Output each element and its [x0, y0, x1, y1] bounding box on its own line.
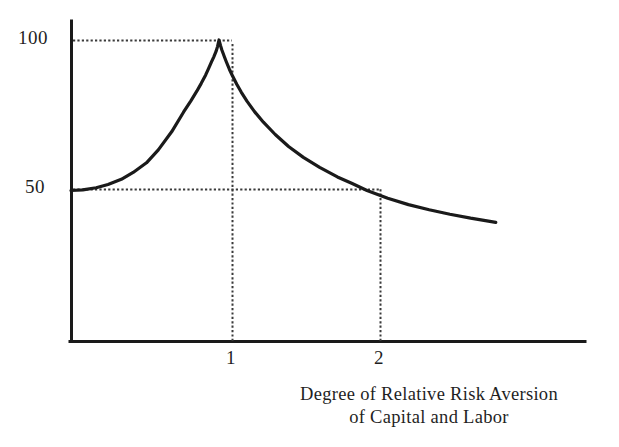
x-axis-label: Degree of Relative Risk Aversion of Capi… [249, 383, 609, 429]
x-axis-label-line-1: Degree of Relative Risk Aversion [249, 383, 609, 406]
y-tick-label-50: 50 [25, 177, 45, 196]
y-tick-label-100: 100 [18, 28, 48, 47]
x-axis-label-line-2: of Capital and Labor [249, 406, 609, 429]
chart-figure: 100 50 1 2 Degree of Relative Risk Avers… [0, 0, 619, 447]
x-tick-label-1: 1 [226, 348, 236, 367]
data-curve-share [71, 40, 496, 222]
chart-plot-area [0, 0, 619, 447]
x-tick-label-2: 2 [374, 348, 384, 367]
